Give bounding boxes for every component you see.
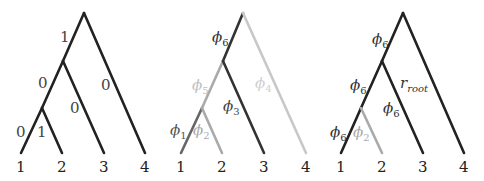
leaf-label-2: 2 xyxy=(217,158,227,176)
leaf-label-3: 3 xyxy=(259,158,269,176)
edge-leaf4 xyxy=(84,13,145,153)
leaf-label-3: 3 xyxy=(418,158,428,176)
leaf-label-1: 1 xyxy=(16,158,26,176)
edge-label-mid-left: 0 xyxy=(38,74,48,92)
edge-label-leaf3: ϕ6 xyxy=(383,99,400,119)
edge-label-leaf4: 0 xyxy=(101,76,111,94)
edge-label-leaf2: 1 xyxy=(37,123,47,141)
edge-label-mid-left: ϕ6 xyxy=(350,76,367,96)
edge-label-leaf4: rroot xyxy=(400,74,429,94)
edge-label-leaf4: ϕ4 xyxy=(255,74,272,94)
edge-label-leaf1: 0 xyxy=(16,123,26,141)
edge-leaf4 xyxy=(243,13,306,153)
edge-root-left xyxy=(382,13,403,61)
edge-leaf2 xyxy=(361,108,382,153)
edge-label-leaf1: ϕ6 xyxy=(330,123,347,143)
leaf-label-3: 3 xyxy=(99,158,109,176)
edge-label-leaf3: ϕ3 xyxy=(223,97,240,117)
edge-label-mid-left: ϕ5 xyxy=(192,76,209,96)
leaf-label-2: 2 xyxy=(377,158,387,176)
tree-1-labels: 1 0 0 1 0 0 xyxy=(16,28,111,141)
leaf-label-1: 1 xyxy=(336,158,346,176)
edge-label-leaf3: 0 xyxy=(70,99,80,117)
edge-label-leaf2: ϕ2 xyxy=(353,123,370,143)
leaf-label-4: 4 xyxy=(301,158,311,176)
leaf-label-4: 4 xyxy=(459,158,469,176)
tree-3-leaf-labels: 1 2 3 4 xyxy=(336,158,469,176)
edge-label-root-left: 1 xyxy=(60,28,70,46)
trees-diagram: 1 0 0 1 0 0 1 2 3 4 ϕ6 ϕ5 ϕ1 ϕ2 ϕ3 ϕ4 1 … xyxy=(0,0,484,181)
tree-1-leaf-labels: 1 2 3 4 xyxy=(16,158,150,176)
edge-label-root-left: ϕ6 xyxy=(372,30,389,50)
tree-3-labels: ϕ6 ϕ6 ϕ6 ϕ2 ϕ6 rroot xyxy=(330,30,429,143)
edge-label-leaf2: ϕ2 xyxy=(193,121,210,141)
leaf-label-1: 1 xyxy=(176,158,186,176)
tree-2-leaf-labels: 1 2 3 4 xyxy=(176,158,311,176)
leaf-label-2: 2 xyxy=(57,158,67,176)
edge-label-leaf1: ϕ1 xyxy=(170,121,187,141)
edge-label-root-left: ϕ6 xyxy=(212,28,229,48)
leaf-label-4: 4 xyxy=(140,158,150,176)
